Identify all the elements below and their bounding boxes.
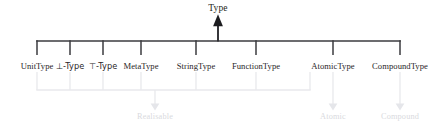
type-label-atomic-type: AtomicType (311, 62, 354, 71)
atomic-arrow (329, 72, 338, 110)
group-label-compound: Compound (381, 113, 419, 121)
type-label-string-type: StringType (177, 62, 216, 71)
root-up-arrow-icon (213, 14, 223, 41)
type-label-meta-type: MetaType (123, 62, 158, 71)
type-hierarchy-diagram: Type UnitType ⊥-Type ⊤-Type MetaType Str… (0, 0, 436, 129)
group-label-realisable: Realisable (137, 113, 173, 121)
type-label-bottom-type: ⊥-Type (56, 62, 84, 70)
type-label-top-type: ⊤-Type (89, 62, 117, 70)
type-label-unit-type: UnitType (21, 62, 54, 71)
type-label-function-type: FunctionType (232, 62, 280, 71)
group-label-atomic: Atomic (320, 113, 346, 121)
realisable-group-bracket (36, 72, 310, 90)
type-label-compound-type: CompoundType (372, 62, 428, 71)
subtype-bracket (36, 40, 401, 55)
realisable-arrow (151, 90, 160, 110)
compound-arrow (396, 72, 405, 110)
root-node-label: Type (208, 4, 227, 14)
